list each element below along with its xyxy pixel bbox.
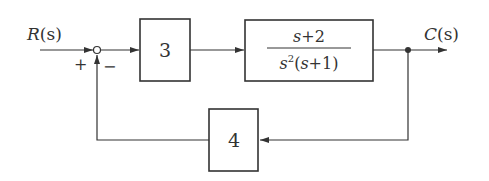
- plant-numerator: s+2: [293, 27, 325, 46]
- block-diagram: R(s) + − 3 s+2 s2(s+1) C(s) 4: [0, 0, 489, 181]
- input-label: R(s): [26, 24, 62, 44]
- output-label: C(s): [424, 24, 459, 44]
- minus-sign: −: [103, 57, 116, 76]
- feedback-gain: 4: [228, 129, 240, 151]
- plus-sign: +: [74, 55, 87, 74]
- controller-gain: 3: [159, 39, 171, 61]
- summing-junction: [94, 47, 101, 54]
